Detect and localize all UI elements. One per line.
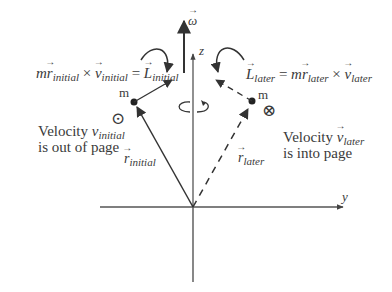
mass-label-later: m: [258, 88, 268, 101]
y-label: y: [342, 190, 348, 203]
mass-label-initial: m: [119, 86, 129, 99]
r-initial-label: rinitial: [124, 152, 156, 168]
velocity-later-direction: is into page: [283, 146, 352, 161]
equation-initial: mrinitial × vinitial = Linitial: [36, 66, 178, 83]
curved-arrow-later-icon: [217, 48, 244, 72]
L-initial-vector: [134, 80, 172, 102]
equation-later: Llater = mrlater × vlater: [246, 67, 372, 84]
velocity-initial-direction: is out of page: [38, 140, 119, 155]
z-label: z: [199, 44, 204, 57]
into-page-icon: ⊗: [262, 102, 276, 119]
omega-label: ω: [188, 14, 197, 27]
r-later-label: rlater: [238, 151, 264, 167]
